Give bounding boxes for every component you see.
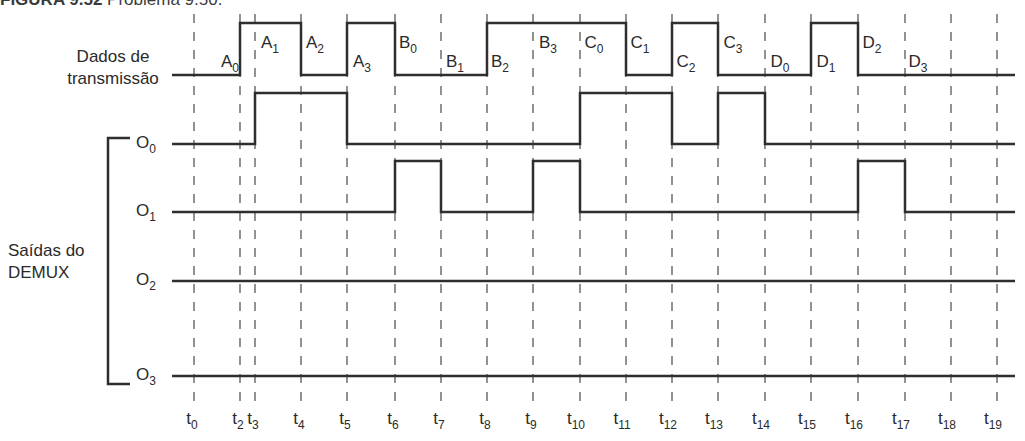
output-label-O1: O1 (136, 201, 156, 224)
bit-label-B0: B0 (399, 33, 417, 56)
time-gridlines (194, 14, 997, 402)
time-label-t16: t16 (845, 409, 863, 432)
time-label-t5: t5 (339, 409, 351, 432)
time-label-t2: t2 (232, 409, 244, 432)
output-labels: O0O1O2O3 (136, 133, 156, 388)
bit-label-B2: B2 (491, 52, 509, 75)
time-label-t7: t7 (433, 409, 445, 432)
bit-label-C2: C2 (677, 52, 696, 75)
bit-label-D1: D1 (817, 52, 836, 75)
time-label-t0: t0 (186, 409, 198, 432)
bit-label-B3: B3 (539, 33, 557, 56)
data-label-line-2: transmissão (67, 69, 159, 88)
demux-label-line-1: Saídas do (8, 241, 85, 260)
time-label-t3: t3 (247, 409, 259, 432)
time-label-t12: t12 (659, 409, 677, 432)
output-label-O3: O3 (136, 365, 156, 388)
bit-label-D2: D2 (863, 33, 882, 56)
bit-label-A2: A2 (306, 33, 324, 56)
bit-label-C1: C1 (631, 33, 650, 56)
time-label-t8: t8 (479, 409, 491, 432)
waveform-o0 (172, 93, 1015, 144)
time-label-t4: t4 (293, 409, 305, 432)
time-label-t15: t15 (798, 409, 816, 432)
time-label-t14: t14 (752, 409, 770, 432)
output-label-O2: O2 (136, 270, 156, 293)
data-label-line-1: Dados de (77, 47, 150, 66)
data-bit-labels: A0A1A2A3B0B1B2B3C0C1C2C3D0D1D2D3 (221, 33, 928, 75)
bit-label-A3: A3 (353, 52, 371, 75)
time-label-t9: t9 (525, 409, 537, 432)
waveform-o1 (172, 161, 1015, 212)
bit-label-A0: A0 (221, 52, 239, 75)
time-label-t6: t6 (387, 409, 399, 432)
bit-label-C0: C0 (585, 33, 604, 56)
bit-label-C3: C3 (724, 33, 743, 56)
waveforms (172, 23, 1015, 376)
time-axis-labels: t0t2t3t4t5t6t7t8t9t10t11t12t13t14t15t16t… (186, 409, 1002, 432)
time-label-t18: t18 (938, 409, 956, 432)
outputs-bracket (108, 138, 130, 384)
bit-label-B1: B1 (446, 52, 464, 75)
bit-label-A1: A1 (261, 33, 279, 56)
bit-label-D3: D3 (909, 52, 928, 75)
timing-diagram: A0A1A2A3B0B1B2B3C0C1C2C3D0D1D2D3 O0O1O2O… (0, 0, 1025, 441)
time-label-t11: t11 (613, 409, 631, 432)
time-label-t19: t19 (984, 409, 1002, 432)
output-label-O0: O0 (136, 133, 156, 156)
time-label-t13: t13 (705, 409, 723, 432)
time-label-t17: t17 (892, 409, 910, 432)
time-label-t10: t10 (567, 409, 585, 432)
demux-label-line-2: DEMUX (8, 263, 69, 282)
bit-label-D0: D0 (771, 52, 790, 75)
